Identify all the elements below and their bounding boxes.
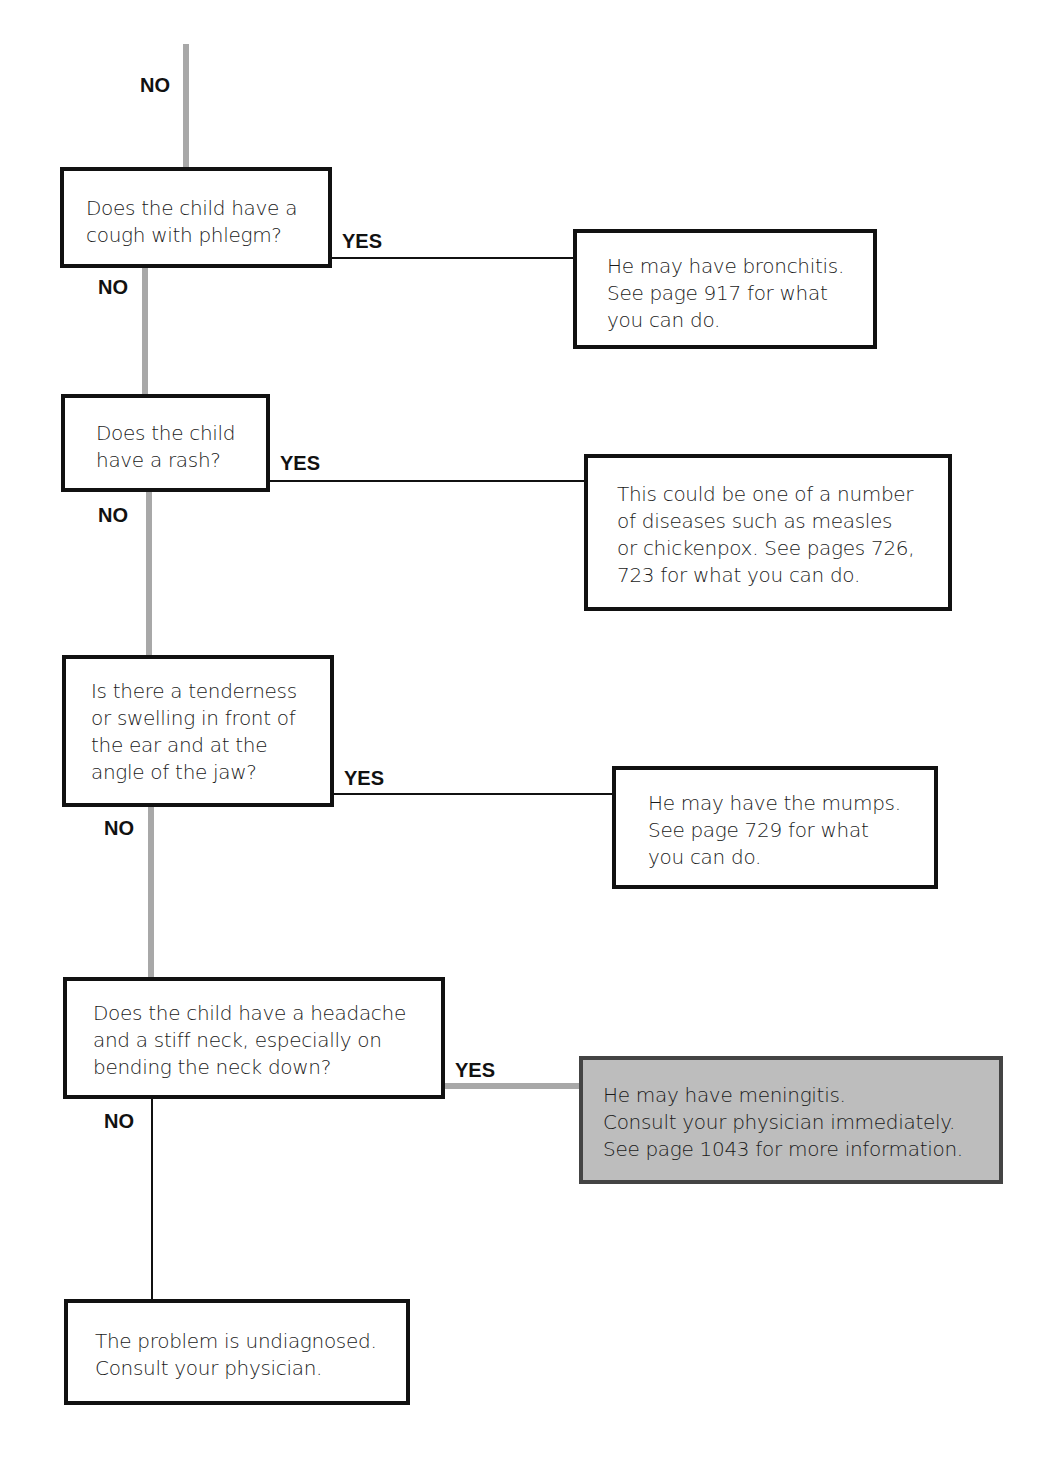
outcome-text: He may have the mumps. See page 729 for … bbox=[648, 790, 901, 871]
outcome-box-undiagnosed: The problem is undiagnosed. Consult your… bbox=[64, 1299, 410, 1405]
no-connector-q2-q3 bbox=[146, 490, 152, 658]
question-text: Does the child have a rash? bbox=[96, 420, 235, 474]
outcome-text: This could be one of a number of disease… bbox=[617, 481, 914, 589]
outcome-text: He may have bronchitis. See page 917 for… bbox=[607, 253, 844, 334]
question-box-jaw: Is there a tenderness or swelling in fro… bbox=[62, 655, 334, 807]
no-label-top: NO bbox=[140, 74, 170, 97]
yes-connector-q2 bbox=[268, 480, 586, 482]
yes-label-q1: YES bbox=[342, 230, 382, 253]
no-label-q3: NO bbox=[104, 817, 134, 840]
outcome-text: The problem is undiagnosed. Consult your… bbox=[95, 1328, 376, 1382]
no-label-q4: NO bbox=[104, 1110, 134, 1133]
outcome-box-bronchitis: He may have bronchitis. See page 917 for… bbox=[573, 229, 877, 349]
yes-label-q3: YES bbox=[344, 767, 384, 790]
no-connector-q1-q2 bbox=[142, 266, 148, 396]
question-box-rash: Does the child have a rash? bbox=[61, 394, 270, 492]
question-box-cough: Does the child have a cough with phlegm? bbox=[60, 167, 332, 268]
yes-connector-q1 bbox=[330, 257, 574, 259]
outcome-box-meningitis: He may have meningitis. Consult your phy… bbox=[579, 1056, 1003, 1184]
question-text: Does the child have a headache and a sti… bbox=[93, 1000, 406, 1081]
yes-connector-q4 bbox=[443, 1083, 581, 1089]
no-connector-top bbox=[183, 44, 189, 169]
outcome-box-mumps: He may have the mumps. See page 729 for … bbox=[612, 766, 938, 889]
no-label-q2: NO bbox=[98, 504, 128, 527]
yes-label-q4: YES bbox=[455, 1059, 495, 1082]
outcome-box-measles: This could be one of a number of disease… bbox=[584, 454, 952, 611]
question-box-headache: Does the child have a headache and a sti… bbox=[63, 977, 445, 1099]
outcome-text: He may have meningitis. Consult your phy… bbox=[603, 1082, 963, 1163]
no-connector-q3-q4 bbox=[148, 805, 154, 980]
no-connector-q4-end bbox=[151, 1097, 153, 1302]
question-text: Does the child have a cough with phlegm? bbox=[86, 195, 297, 249]
yes-label-q2: YES bbox=[280, 452, 320, 475]
yes-connector-q3 bbox=[332, 793, 614, 795]
question-text: Is there a tenderness or swelling in fro… bbox=[91, 678, 297, 786]
no-label-q1: NO bbox=[98, 276, 128, 299]
